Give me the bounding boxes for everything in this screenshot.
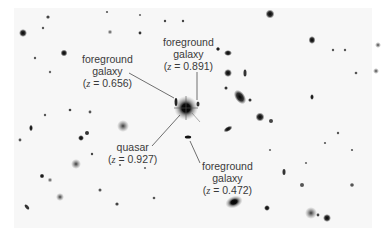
z-symbol: z [167, 61, 171, 72]
redshift-value: = 0.472 [213, 184, 248, 196]
label-line-2: galaxy [82, 65, 133, 77]
label-foreground-galaxy-0891: foreground galaxy (z = 0.891) [163, 36, 214, 73]
label-line-1: foreground [202, 160, 253, 172]
redshift-value: = 0.656 [93, 77, 128, 89]
label-line-1: foreground [163, 36, 214, 48]
redshift-text: (z = 0.656) [82, 77, 133, 90]
label-foreground-galaxy-0656: foreground galaxy (z = 0.656) [82, 53, 133, 90]
redshift-text: (z = 0.472) [202, 184, 253, 197]
z-symbol: z [86, 78, 90, 89]
redshift-text: (z = 0.927) [108, 153, 157, 166]
foreground-galaxy-0656 [175, 98, 178, 106]
label-line-1: foreground [82, 53, 133, 65]
label-quasar: quasar (z = 0.927) [108, 141, 157, 166]
redshift-value: = 0.891 [174, 60, 209, 72]
z-symbol: z [206, 185, 210, 196]
label-foreground-galaxy-0472: foreground galaxy (z = 0.472) [202, 160, 253, 197]
label-line-2: galaxy [202, 172, 253, 184]
foreground-galaxy-0891 [197, 102, 200, 107]
foreground-galaxy-0472 [185, 135, 191, 138]
label-line-2: galaxy [163, 48, 214, 60]
redshift-text: (z = 0.891) [163, 60, 214, 73]
z-symbol: z [112, 154, 116, 165]
redshift-value: = 0.927 [119, 153, 154, 165]
label-line-1: quasar [108, 141, 157, 153]
